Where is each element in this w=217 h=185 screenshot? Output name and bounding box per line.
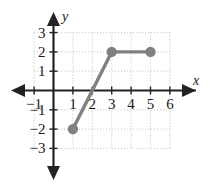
y-tick-label: 2 xyxy=(38,44,46,60)
y-axis-label: y xyxy=(60,9,69,24)
x-tick-label: 6 xyxy=(166,96,174,112)
coordinate-plane-svg: −1123456321−1−2−3 x y xyxy=(0,0,217,185)
y-axis-arrow-down xyxy=(47,166,60,180)
x-axis-label: x xyxy=(192,73,200,88)
y-tick-label: −3 xyxy=(30,140,46,156)
y-axis-arrow-up xyxy=(47,12,60,26)
x-tick-label: 3 xyxy=(108,96,116,112)
y-tick-label: 1 xyxy=(38,63,46,79)
x-tick-label: 2 xyxy=(89,96,97,112)
x-tick-label: 4 xyxy=(127,96,135,112)
x-tick-label: 5 xyxy=(147,96,155,112)
data-point-closed xyxy=(69,125,77,133)
data-point-closed xyxy=(146,48,154,56)
x-axis-arrow-left xyxy=(11,84,25,97)
x-tick-label: 1 xyxy=(69,96,77,112)
y-tick-label: −2 xyxy=(30,121,46,137)
y-tick-label: 3 xyxy=(38,25,46,41)
y-tick-label: −1 xyxy=(30,102,46,118)
data-point-closed xyxy=(108,48,116,56)
graph-figure: −1123456321−1−2−3 x y xyxy=(0,0,217,185)
